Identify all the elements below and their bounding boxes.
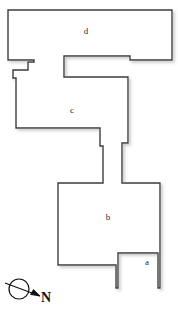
compass-rose-group: [5, 279, 40, 299]
compass-circle-icon: [9, 279, 29, 299]
building-outline-group: [8, 10, 172, 288]
room-label-b: b: [106, 213, 111, 222]
north-direction-label: N: [41, 291, 51, 305]
room-label-a: a: [145, 258, 149, 267]
compass-arrowhead-icon: [31, 290, 41, 297]
building-outline-polygon: [8, 10, 172, 288]
room-label-c: c: [70, 106, 74, 115]
floor-plan-diagram: d c b a N: [0, 0, 178, 316]
room-label-d: d: [84, 27, 89, 36]
floor-plan-svg: [0, 0, 178, 316]
